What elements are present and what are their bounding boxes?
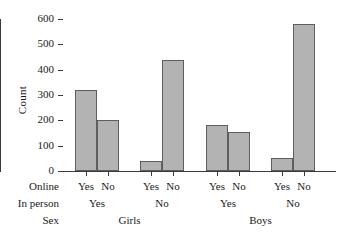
- y-tick-300: [58, 95, 63, 96]
- y-tick-label-200: 200: [14, 114, 54, 125]
- bar: [162, 60, 184, 171]
- label-in-person: Yes: [67, 195, 127, 212]
- y-tick-100: [58, 146, 63, 147]
- y-tick-label-0: 0: [14, 165, 54, 176]
- label-sex: Girls: [100, 212, 160, 229]
- bar: [271, 158, 293, 171]
- label-in-person: No: [263, 195, 323, 212]
- bar: [97, 120, 119, 171]
- label-sex: Boys: [231, 212, 291, 229]
- label-row-title-sex: Sex: [0, 212, 59, 229]
- bar: [293, 24, 315, 171]
- y-tick-500: [58, 44, 63, 45]
- y-axis-line: [0, 19, 1, 172]
- x-axis-line: [63, 171, 336, 172]
- bar: [228, 132, 250, 171]
- y-tick-600: [58, 19, 63, 20]
- label-row-sex: Sex GirlsBoys: [0, 212, 346, 229]
- x-tick: [304, 172, 305, 176]
- bar: [140, 161, 162, 171]
- label-row-title-online: Online: [0, 178, 59, 195]
- label-online: No: [274, 178, 334, 195]
- x-tick: [173, 172, 174, 176]
- y-tick-400: [58, 70, 63, 71]
- label-in-person: No: [132, 195, 192, 212]
- bar: [206, 125, 228, 171]
- bar-chart: Count 0100200300400500600 Online YesNoYe…: [0, 0, 346, 240]
- bar: [75, 90, 97, 171]
- x-tick: [151, 172, 152, 176]
- x-tick: [108, 172, 109, 176]
- y-tick-label-100: 100: [14, 140, 54, 151]
- y-tick-label-500: 500: [14, 38, 54, 49]
- label-in-person: Yes: [198, 195, 258, 212]
- category-label-block: Online YesNoYesNoYesNoYesNo In person Ye…: [0, 178, 346, 229]
- y-tick-200: [58, 120, 63, 121]
- y-tick-label-300: 300: [14, 89, 54, 100]
- x-tick: [86, 172, 87, 176]
- label-row-in-person: In person YesNoYesNo: [0, 195, 346, 212]
- label-row-title-in-person: In person: [0, 195, 59, 212]
- x-tick: [217, 172, 218, 176]
- y-tick-label-600: 600: [14, 13, 54, 24]
- x-tick: [239, 172, 240, 176]
- y-tick-0: [58, 171, 63, 172]
- label-row-online: Online YesNoYesNoYesNoYesNo: [0, 178, 346, 195]
- y-tick-label-400: 400: [14, 64, 54, 75]
- x-tick: [282, 172, 283, 176]
